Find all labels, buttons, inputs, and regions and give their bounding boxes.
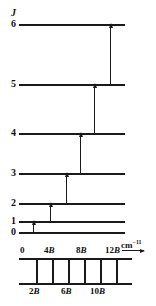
spectrum-line-6b — [68, 258, 70, 283]
spectrum-top-tick-label-1: 4B — [44, 246, 55, 255]
energy-level-line-j5 — [19, 84, 125, 86]
energy-level-line-j3 — [19, 173, 125, 175]
spectrum-baseline-bottom — [19, 283, 132, 285]
j-quantum-number-axis-label: J — [11, 8, 16, 18]
spectrum-line-2b — [36, 258, 38, 283]
energy-level-line-j4 — [19, 133, 125, 135]
spectrum-top-tick-label-3: 12B — [105, 246, 120, 255]
transition-arrow-j3-to-j4 — [80, 133, 81, 173]
transition-arrow-j0-to-j1 — [33, 221, 34, 232]
spectrum-top-tick-label-2: 8B — [76, 246, 87, 255]
transition-arrow-j2-to-j3 — [66, 173, 67, 203]
spectrum-line-4b — [52, 258, 54, 283]
spectrum-bottom-tick-label-1: 6B — [61, 287, 72, 296]
energy-level-label-j1: 1 — [4, 216, 16, 226]
energy-level-label-j2: 2 — [4, 198, 16, 208]
spectrum-line-10b — [100, 258, 102, 283]
energy-level-label-j3: 3 — [4, 168, 16, 178]
spectrum-bottom-tick-label-2: 10B — [90, 287, 105, 296]
energy-level-line-j0 — [19, 232, 125, 234]
transition-arrow-j1-to-j2 — [50, 203, 51, 221]
energy-level-label-j4: 4 — [4, 128, 16, 138]
energy-level-label-j0: 0 — [4, 227, 16, 237]
spectrum-line-8b — [84, 258, 86, 283]
spectrum-line-12b — [116, 258, 118, 283]
spectrum-top-tick-label-0: 0 — [20, 246, 25, 255]
transition-arrow-j5-to-j6 — [110, 24, 111, 84]
energy-level-diagram-figure: J 6543210 04B8B12B2B6B10B cm−11 — [0, 0, 156, 306]
energy-level-label-j6: 6 — [4, 19, 16, 29]
spectrum-bottom-tick-label-0: 2B — [29, 287, 40, 296]
wavenumber-unit-label: cm−11 — [121, 238, 142, 250]
transition-arrow-j4-to-j5 — [94, 84, 95, 133]
energy-level-line-j2 — [19, 203, 125, 205]
wavenumber-direction-arrow — [122, 250, 144, 251]
energy-level-label-j5: 5 — [4, 79, 16, 89]
